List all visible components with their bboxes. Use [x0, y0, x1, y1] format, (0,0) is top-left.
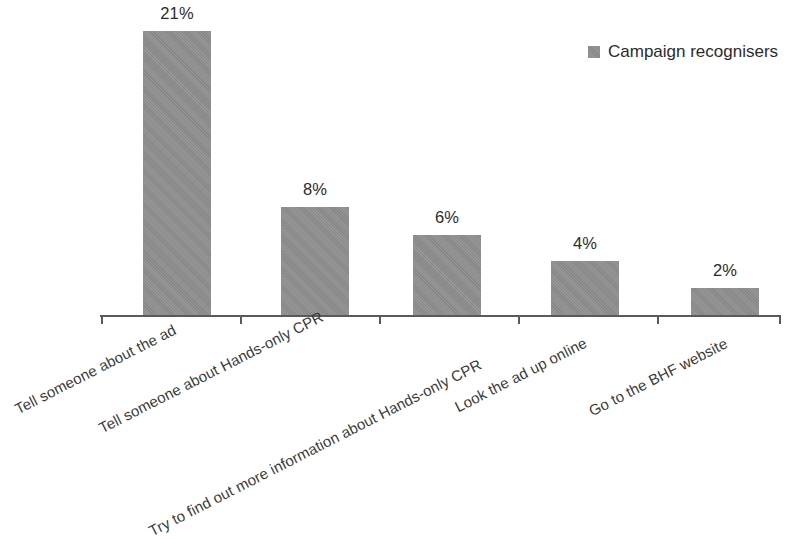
legend-swatch-icon — [588, 46, 600, 58]
bar-value-label-3: 6% — [413, 208, 481, 227]
chart-legend: Campaign recognisers — [588, 42, 778, 62]
x-axis-tick-2 — [379, 317, 381, 324]
x-axis-tick-1 — [240, 317, 242, 324]
bar-try-to-find-out-more-information — [413, 235, 481, 315]
x-axis-line — [100, 315, 781, 317]
legend-label-campaign-recognisers: Campaign recognisers — [608, 42, 778, 62]
x-axis-tick-4 — [657, 317, 659, 324]
bar-value-label-5: 2% — [691, 261, 759, 280]
x-axis-tick-5 — [779, 317, 781, 324]
bar-chart: 21% 8% 6% 4% 2% Tell someone about the a… — [0, 0, 791, 539]
bar-value-label-4: 4% — [551, 234, 619, 253]
bar-value-label-2: 8% — [281, 180, 349, 199]
x-axis-tick-0 — [101, 317, 103, 324]
bar-tell-someone-about-hands-only-cpr — [281, 207, 349, 315]
bar-tell-someone-about-the-ad — [143, 31, 211, 315]
x-axis-label-go-to-the-bhf-website: Go to the BHF website — [586, 335, 730, 420]
x-axis-tick-3 — [518, 317, 520, 324]
bar-value-label-1: 21% — [143, 4, 211, 23]
bar-look-the-ad-up-online — [551, 261, 619, 315]
bar-go-to-the-bhf-website — [691, 288, 759, 315]
